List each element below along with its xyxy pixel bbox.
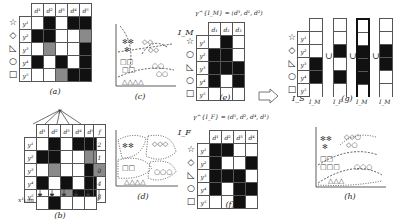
f-value: 1 — [94, 151, 106, 164]
svg-text:○○: ○○ — [152, 62, 164, 70]
matrix-e: d₁ d₂ d₃ y¹ y² y³ y⁴ y⁵ — [196, 22, 245, 101]
row-label: y³ — [25, 164, 37, 177]
row-label: y³ — [197, 62, 209, 75]
star-icon: ☆ — [287, 31, 297, 44]
triangle-icon: ◺ — [186, 169, 196, 182]
col-header: d⁴ — [246, 131, 258, 144]
triangle-icon: ◺ — [287, 57, 297, 70]
svg-text:✻: ✻ — [322, 143, 328, 151]
circle-icon: ○ — [8, 55, 18, 68]
svg-text:◇◇: ◇◇ — [142, 38, 153, 46]
shape-legend-a: ☆ ◇ ◺ ○ □ — [8, 16, 18, 81]
svg-text:□□: □□ — [320, 155, 333, 163]
row-label: y¹ — [20, 17, 32, 30]
star-icon: ☆ — [186, 143, 196, 156]
caption-g: (g) — [332, 94, 362, 103]
row-label: y¹ — [198, 144, 210, 157]
scatter-d: ✻✻ ◇◇◇ □□ ○○○ △△△△ — [112, 128, 182, 190]
caption-h: (h) — [335, 192, 365, 201]
col-header: d₁ — [209, 23, 221, 36]
col-header: d³ — [56, 4, 68, 17]
diamond-icon: ◇ — [186, 156, 196, 169]
column-d2 — [379, 18, 393, 97]
col-header: d⁵ — [80, 4, 92, 17]
diamond-icon: ◇ — [8, 29, 18, 42]
formula-f: γ^{I_F} = (d⁵, d², d⁴, d¹) — [193, 113, 269, 120]
svg-text:◇◇◇: ◇◇◇ — [152, 140, 169, 148]
svg-text:✻✻: ✻✻ — [122, 38, 134, 46]
source-label: I_M — [309, 98, 321, 105]
row-label: y⁴ — [298, 71, 310, 84]
svg-text:✻: ✻ — [124, 46, 130, 54]
circle-icon: ○ — [185, 48, 195, 61]
row-label: y⁴ — [198, 183, 210, 196]
shape-legend-g: ☆ ◇ ◺ ○ □ — [287, 31, 297, 96]
row-label: y⁵ — [198, 196, 210, 209]
shape-legend-f: ☆ ◇ ◺ ○ □ — [186, 143, 196, 208]
caption-c: (c) — [125, 92, 155, 101]
col-header: d⁴ — [68, 4, 80, 17]
row-label: y¹ — [298, 32, 310, 45]
col-header: d¹ — [32, 4, 44, 17]
scatter-h: ✻✻✻ ◇◇○◇○ □□□□□ ○○○ △△△ — [310, 125, 390, 191]
row-label: y² — [25, 151, 37, 164]
caption-e: (e) — [210, 93, 240, 102]
square-icon: □ — [185, 87, 195, 100]
svg-text:□□: □□ — [120, 58, 133, 66]
svg-text:△△△△: △△△△ — [122, 78, 144, 86]
square-icon: □ — [186, 195, 196, 208]
matrix-f: d¹ d² d³ d⁴ y¹ y² y³ y⁴ y⁵ — [197, 130, 258, 209]
row-label: y⁴ — [25, 177, 37, 190]
col-header: d² — [222, 131, 234, 144]
svg-text:◇◇○: ◇◇○ — [344, 133, 361, 141]
f-header: f — [94, 125, 106, 138]
svg-text:□□□: □□□ — [320, 163, 340, 171]
row-label: y² — [197, 49, 209, 62]
row-label: y² — [298, 45, 310, 58]
svg-text:□□: □□ — [122, 164, 135, 172]
row-label: y¹ — [197, 36, 209, 49]
row-label: y⁵ — [298, 84, 310, 97]
col-header: d¹ — [210, 131, 222, 144]
svg-text:✻✻: ✻✻ — [122, 142, 134, 150]
caption-f: (f) — [215, 200, 245, 209]
col-header: d⁴ — [73, 125, 85, 138]
svg-text:△△△: △△△ — [328, 177, 345, 185]
row-label: y³ — [20, 43, 32, 56]
diamond-icon: ◇ — [287, 44, 297, 57]
star-icon: ☆ — [8, 16, 18, 29]
svg-text:○○: ○○ — [156, 70, 168, 78]
circle-icon: ○ — [287, 70, 297, 83]
svg-text:○○○: ○○○ — [354, 163, 372, 171]
f-value: 4 — [94, 177, 106, 190]
scatter-c: ✻✻✻ ◇◇◇◇ □□□□ ○○○○ △△△△ — [112, 22, 178, 90]
row-label: y⁴ — [20, 56, 32, 69]
right-arrow-icon — [258, 88, 280, 104]
svg-text:□□: □□ — [122, 66, 135, 74]
caption-a: (a) — [40, 87, 70, 96]
svg-text:◇◇: ◇◇ — [148, 46, 159, 54]
svg-text:✻✻: ✻✻ — [320, 135, 332, 143]
star-icon: ☆ — [185, 35, 195, 48]
caption-d: (d) — [128, 192, 158, 201]
square-icon: □ — [8, 68, 18, 81]
col-header: d₂ — [221, 23, 233, 36]
row-label: y⁴ — [197, 75, 209, 88]
formula-e: γ^{I_M} = (d³, d¹, d²) — [195, 9, 263, 16]
caption-b: (b) — [45, 211, 75, 220]
col-header: d₃ — [233, 23, 245, 36]
row-label: y³ — [198, 170, 210, 183]
union-symbol: ∪ — [325, 51, 333, 61]
svg-text:○○○: ○○○ — [154, 168, 172, 176]
svg-text:△△△△: △△△△ — [124, 178, 146, 186]
circle-icon: ○ — [185, 74, 195, 87]
row-label: y³ — [298, 58, 310, 71]
row-label: y⁵ — [20, 69, 32, 82]
column-d3 — [309, 18, 323, 97]
col-header: d² — [49, 125, 61, 138]
source-label: I_M — [379, 98, 391, 105]
row-label: y² — [20, 30, 32, 43]
shape-legend-e: ☆ ○ ◺ ○ □ — [185, 35, 195, 100]
title-f: I_F — [178, 128, 191, 137]
x-row — [36, 196, 97, 210]
